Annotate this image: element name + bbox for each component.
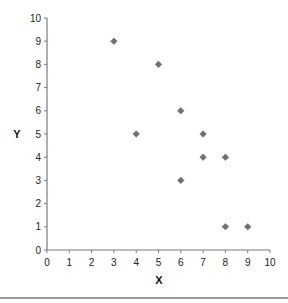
bottom-divider	[0, 297, 288, 299]
y-tick-label: 10	[30, 13, 42, 24]
x-tick-label: 8	[223, 257, 229, 268]
y-tick-label: 3	[35, 175, 41, 186]
y-tick-label: 0	[35, 245, 41, 256]
y-tick-label: 1	[35, 221, 41, 232]
x-tick-label: 6	[178, 257, 184, 268]
y-tick-label: 6	[35, 105, 41, 116]
diamond-marker	[244, 224, 251, 231]
x-tick-label: 10	[264, 257, 276, 268]
x-tick-label: 0	[44, 257, 50, 268]
x-axis-title: X	[155, 274, 163, 286]
x-tick-label: 2	[89, 257, 95, 268]
scatter-chart: 012345678910 012345678910 Y X	[0, 0, 288, 303]
x-tick-label: 9	[245, 257, 251, 268]
diamond-marker	[222, 154, 229, 161]
diamond-marker	[111, 38, 118, 45]
x-tick-label: 7	[200, 257, 206, 268]
diamond-marker	[200, 154, 207, 161]
x-tick-label: 5	[156, 257, 162, 268]
y-tick-label: 2	[35, 198, 41, 209]
x-axis-ticks: 012345678910	[44, 250, 276, 268]
axes	[47, 18, 270, 250]
diamond-marker	[200, 131, 207, 138]
y-tick-label: 7	[35, 82, 41, 93]
x-tick-label: 1	[67, 257, 73, 268]
y-tick-label: 4	[35, 152, 41, 163]
y-tick-label: 9	[35, 36, 41, 47]
y-axis-title: Y	[13, 128, 21, 140]
y-tick-label: 5	[35, 129, 41, 140]
diamond-marker	[155, 61, 162, 68]
data-points	[111, 38, 251, 230]
diamond-marker	[222, 224, 229, 231]
y-tick-label: 8	[35, 59, 41, 70]
diamond-marker	[178, 108, 185, 115]
diamond-marker	[178, 177, 185, 184]
x-tick-label: 3	[111, 257, 117, 268]
diamond-marker	[133, 131, 140, 138]
x-tick-label: 4	[133, 257, 139, 268]
y-axis-ticks: 012345678910	[30, 13, 47, 256]
